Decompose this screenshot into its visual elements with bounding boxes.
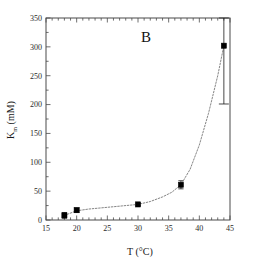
x-tick-label: 40	[195, 224, 203, 233]
error-bars	[62, 18, 229, 218]
data-markers	[62, 43, 227, 218]
x-tick-label: 35	[165, 224, 173, 233]
y-tick-label: 50	[34, 187, 42, 196]
plot-area: 15202530354045 050100150200250300350 T (…	[0, 0, 262, 262]
y-tick-label: 300	[30, 43, 42, 52]
y-tick-labels: 050100150200250300350	[30, 14, 42, 225]
axes-frame	[46, 18, 230, 220]
x-tick-label: 30	[134, 224, 142, 233]
y-tick-label: 150	[30, 129, 42, 138]
y-tick-label: 0	[38, 216, 42, 225]
x-tick-label: 20	[73, 224, 81, 233]
y-tick-label: 350	[30, 14, 42, 23]
axis-ticks	[46, 18, 230, 220]
y-tick-label: 200	[30, 100, 42, 109]
data-point-marker	[221, 43, 226, 48]
y-tick-label: 250	[30, 72, 42, 81]
data-point-marker	[62, 213, 67, 218]
data-point-marker	[135, 202, 140, 207]
fit-curve	[64, 46, 223, 216]
x-tick-label: 25	[103, 224, 111, 233]
data-point-marker	[74, 208, 79, 213]
x-tick-label: 15	[42, 224, 50, 233]
x-tick-label: 45	[226, 224, 234, 233]
x-tick-labels: 15202530354045	[42, 224, 234, 233]
data-point-marker	[178, 182, 183, 187]
y-axis-title: Km (mM)	[5, 101, 18, 139]
y-tick-label: 100	[30, 158, 42, 167]
panel-label: B	[141, 29, 151, 45]
x-axis-title: T (°C)	[127, 246, 153, 258]
figure-panel-b: 15202530354045 050100150200250300350 T (…	[0, 0, 262, 262]
